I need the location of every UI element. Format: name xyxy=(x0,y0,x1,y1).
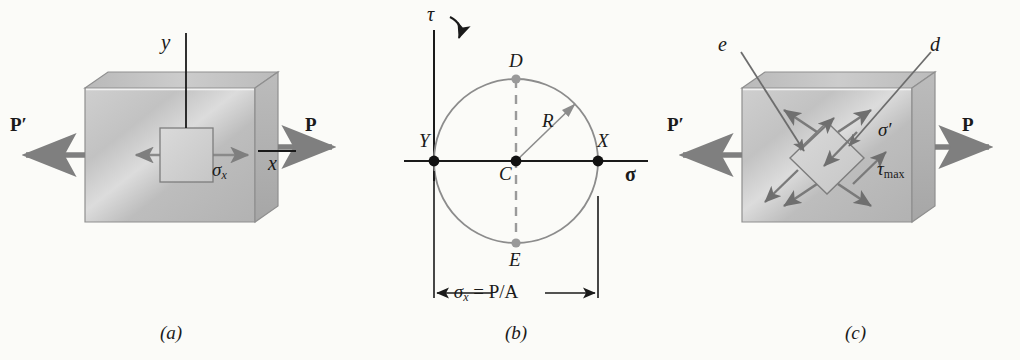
point-label-y: Y xyxy=(419,130,430,152)
stress-label-tau-max-c: τmax xyxy=(877,158,904,182)
radius-label-r: R xyxy=(542,110,554,132)
stress-element-square-a xyxy=(160,128,213,182)
point-label-e: E xyxy=(509,249,521,271)
point-label-x: X xyxy=(597,130,609,152)
axis-label-x-a: x xyxy=(268,152,277,175)
stress-label-sigma-x-a-symbol: σ xyxy=(212,159,221,180)
point-marker-x xyxy=(593,156,604,167)
figure-root: P′ P y x σx (a) τ σ Y X C D E R σx = P/A… xyxy=(0,0,1020,360)
point-marker-e xyxy=(511,238,520,247)
force-label-p-prime-a: P′ xyxy=(10,114,27,136)
dimension-label-sigma-symbol: σ xyxy=(454,281,463,302)
point-marker-d xyxy=(511,74,520,83)
plane-label-d: d xyxy=(930,33,940,56)
axis-label-tau-b: τ xyxy=(427,3,434,26)
point-marker-y xyxy=(429,156,440,167)
panel-caption-a: (a) xyxy=(160,322,182,344)
panel-b-graphics xyxy=(404,17,648,298)
axis-label-sigma-b: σ xyxy=(625,163,636,186)
rotation-arrow-icon xyxy=(450,17,460,38)
panel-caption-c: (c) xyxy=(845,322,866,344)
point-marker-c xyxy=(511,156,522,167)
block-a-side-face xyxy=(255,72,278,222)
point-label-d: D xyxy=(509,50,523,72)
panel-a-graphics xyxy=(26,33,332,222)
force-label-p-a: P xyxy=(305,114,317,136)
stress-label-tau-symbol: τ xyxy=(877,158,884,179)
axis-label-y-a: y xyxy=(161,30,170,55)
stress-label-tau-subscript: max xyxy=(884,167,905,181)
dimension-label-sigma-x: σx = P/A xyxy=(454,281,519,305)
block-a-top-face xyxy=(85,72,278,88)
point-label-c: C xyxy=(499,163,512,185)
dimension-label-rest: = P/A xyxy=(468,281,518,302)
block-c-side-face xyxy=(912,72,935,222)
panel-c-graphics xyxy=(683,52,989,222)
force-label-p-prime-c: P′ xyxy=(667,114,684,136)
stress-label-sigma-x-a: σx xyxy=(212,159,227,183)
stress-label-sigma-x-a-subscript: x xyxy=(221,168,226,182)
stress-label-sigma-prime-c: σ′ xyxy=(878,119,892,141)
plane-label-e: e xyxy=(718,33,727,56)
panel-caption-b: (b) xyxy=(505,322,527,344)
force-label-p-c: P xyxy=(962,114,974,136)
